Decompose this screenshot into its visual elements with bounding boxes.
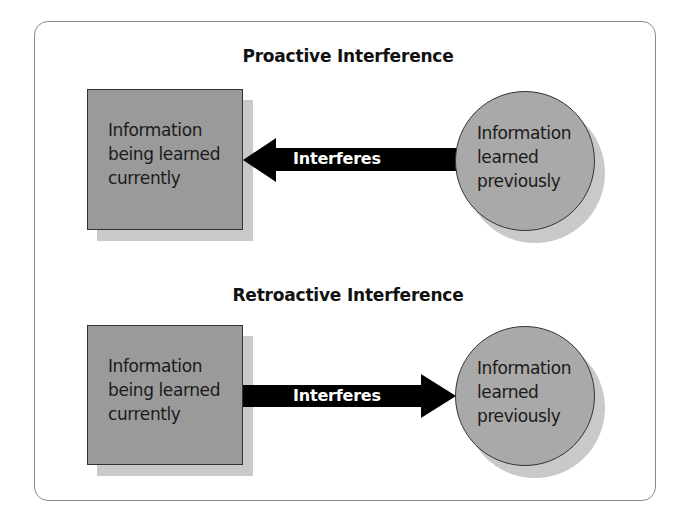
interferes-right-arrow-icon (0, 0, 696, 516)
arrow-label: Interferes (293, 386, 381, 405)
circle-label: Information learned previously (477, 356, 571, 428)
previous-information-circle: Information learned previously (455, 326, 595, 466)
